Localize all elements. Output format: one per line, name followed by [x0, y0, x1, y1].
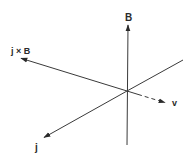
label-v: v: [172, 98, 177, 108]
j-cross-b-vector: [21, 58, 138, 94]
vector-diagram: B j × B j v: [0, 0, 193, 164]
label-j: j: [34, 142, 38, 153]
v-vector: [138, 94, 165, 102]
label-j-cross-b: j × B: [10, 46, 31, 56]
j-vector: [44, 91, 127, 138]
label-b: B: [125, 12, 132, 23]
axis-upper-right: [127, 60, 183, 91]
b-vector: [127, 25, 128, 145]
